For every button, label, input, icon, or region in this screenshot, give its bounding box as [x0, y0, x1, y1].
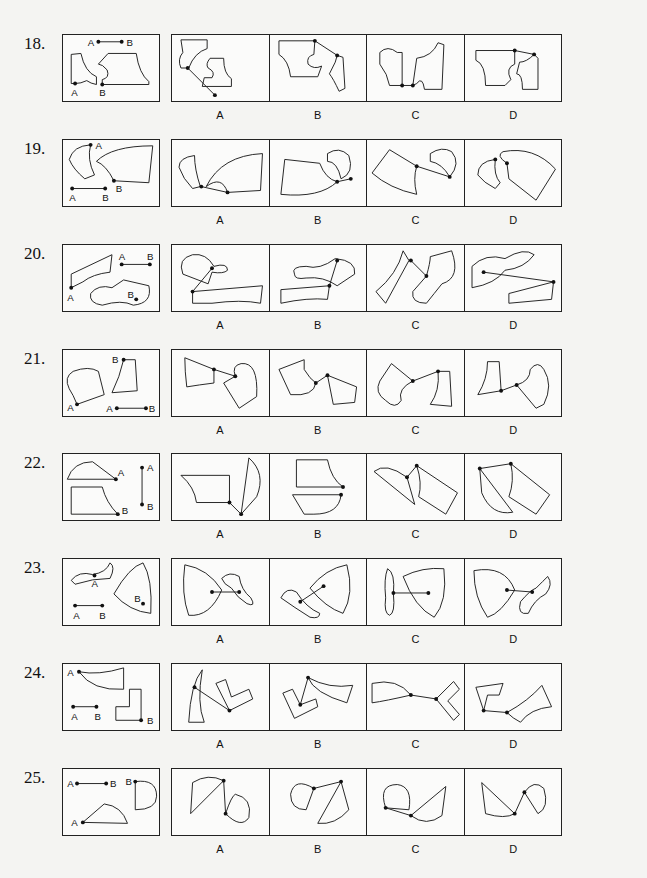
- option-label: B: [269, 843, 367, 855]
- option-d[interactable]: [465, 245, 562, 311]
- option-label: A: [171, 528, 269, 540]
- question-21: 21. A B AB A B C D: [0, 349, 647, 454]
- option-a[interactable]: [172, 350, 270, 416]
- shapes-figure-icon: A B AB: [63, 140, 159, 206]
- option-label: D: [464, 424, 562, 436]
- option-c[interactable]: [367, 140, 465, 206]
- shapes-figure-icon: A B AB: [63, 350, 159, 416]
- option-labels: A B C D: [171, 528, 562, 540]
- option-c[interactable]: [367, 35, 465, 101]
- option-a[interactable]: [172, 769, 270, 835]
- option-labels: A B C D: [171, 109, 562, 121]
- question-prompt-figure: A AB B: [62, 663, 160, 731]
- svg-text:B: B: [147, 251, 153, 262]
- answer-options: [171, 349, 562, 417]
- svg-text:B: B: [128, 289, 134, 300]
- option-b[interactable]: [270, 454, 368, 520]
- option-labels: A B C D: [171, 214, 562, 226]
- svg-text:A: A: [67, 292, 74, 303]
- answer-options: [171, 139, 562, 207]
- question-prompt-figure: A B AB: [62, 349, 160, 417]
- option-label: C: [367, 633, 465, 645]
- question-prompt-figure: A B AB: [62, 139, 160, 207]
- question-number: 23.: [24, 558, 45, 578]
- option-a[interactable]: [172, 140, 270, 206]
- option-d[interactable]: [465, 664, 562, 730]
- svg-text:A: A: [67, 402, 74, 413]
- svg-text:B: B: [147, 715, 153, 726]
- option-d[interactable]: [465, 769, 562, 835]
- question-22: 22. A B AB A B C D: [0, 453, 647, 558]
- svg-text:B: B: [95, 711, 101, 722]
- option-label: A: [171, 738, 269, 750]
- option-b[interactable]: [270, 769, 368, 835]
- option-label: D: [464, 633, 562, 645]
- answer-options: [171, 768, 562, 836]
- svg-text:A: A: [92, 578, 99, 589]
- option-labels: A B C D: [171, 424, 562, 436]
- question-number: 25.: [24, 768, 45, 788]
- option-d[interactable]: [465, 559, 562, 625]
- option-a[interactable]: [172, 454, 270, 520]
- svg-text:A: A: [71, 817, 78, 828]
- svg-text:A: A: [88, 37, 95, 48]
- option-label: C: [367, 424, 465, 436]
- option-b[interactable]: [270, 664, 368, 730]
- option-label: C: [367, 109, 465, 121]
- option-c[interactable]: [367, 245, 465, 311]
- option-label: B: [269, 424, 367, 436]
- option-labels: A B C D: [171, 319, 562, 331]
- option-a[interactable]: [172, 35, 270, 101]
- option-labels: A B C D: [171, 738, 562, 750]
- svg-text:B: B: [149, 403, 155, 414]
- option-d[interactable]: [465, 350, 562, 416]
- question-prompt-figure: AB A B: [62, 34, 160, 102]
- option-label: C: [367, 214, 465, 226]
- option-label: B: [269, 738, 367, 750]
- svg-text:A: A: [73, 610, 80, 621]
- option-d[interactable]: [465, 140, 562, 206]
- option-c[interactable]: [367, 559, 465, 625]
- option-a[interactable]: [172, 245, 270, 311]
- option-label: D: [464, 843, 562, 855]
- shapes-figure-icon: AB B A: [63, 769, 159, 835]
- svg-text:A: A: [67, 778, 74, 789]
- svg-text:B: B: [99, 87, 105, 98]
- question-25: 25. AB B A A B C D: [0, 768, 647, 873]
- answer-options: [171, 453, 562, 521]
- svg-text:B: B: [134, 593, 140, 604]
- option-b[interactable]: [270, 559, 368, 625]
- svg-text:A: A: [147, 462, 154, 473]
- option-label: C: [367, 319, 465, 331]
- option-a[interactable]: [172, 559, 270, 625]
- shapes-figure-icon: A AB B: [63, 559, 159, 625]
- option-labels: A B C D: [171, 843, 562, 855]
- option-b[interactable]: [270, 245, 368, 311]
- svg-text:B: B: [99, 610, 105, 621]
- question-prompt-figure: A AB B: [62, 244, 160, 312]
- svg-text:B: B: [112, 354, 118, 365]
- answer-options: [171, 558, 562, 626]
- option-b[interactable]: [270, 140, 368, 206]
- option-labels: A B C D: [171, 633, 562, 645]
- question-prompt-figure: A AB B: [62, 558, 160, 626]
- option-a[interactable]: [172, 664, 270, 730]
- option-label: C: [367, 528, 465, 540]
- option-b[interactable]: [270, 350, 368, 416]
- option-d[interactable]: [465, 35, 562, 101]
- option-c[interactable]: [367, 769, 465, 835]
- option-c[interactable]: [367, 350, 465, 416]
- option-label: A: [171, 633, 269, 645]
- option-c[interactable]: [367, 664, 465, 730]
- svg-text:B: B: [126, 777, 132, 788]
- shapes-figure-icon: A B AB: [63, 454, 159, 520]
- svg-text:B: B: [110, 778, 116, 789]
- option-label: D: [464, 319, 562, 331]
- svg-text:A: A: [118, 467, 125, 478]
- option-c[interactable]: [367, 454, 465, 520]
- question-20: 20. A AB B A B C D: [0, 244, 647, 349]
- option-b[interactable]: [270, 35, 368, 101]
- option-label: D: [464, 109, 562, 121]
- option-d[interactable]: [465, 454, 562, 520]
- option-label: C: [367, 738, 465, 750]
